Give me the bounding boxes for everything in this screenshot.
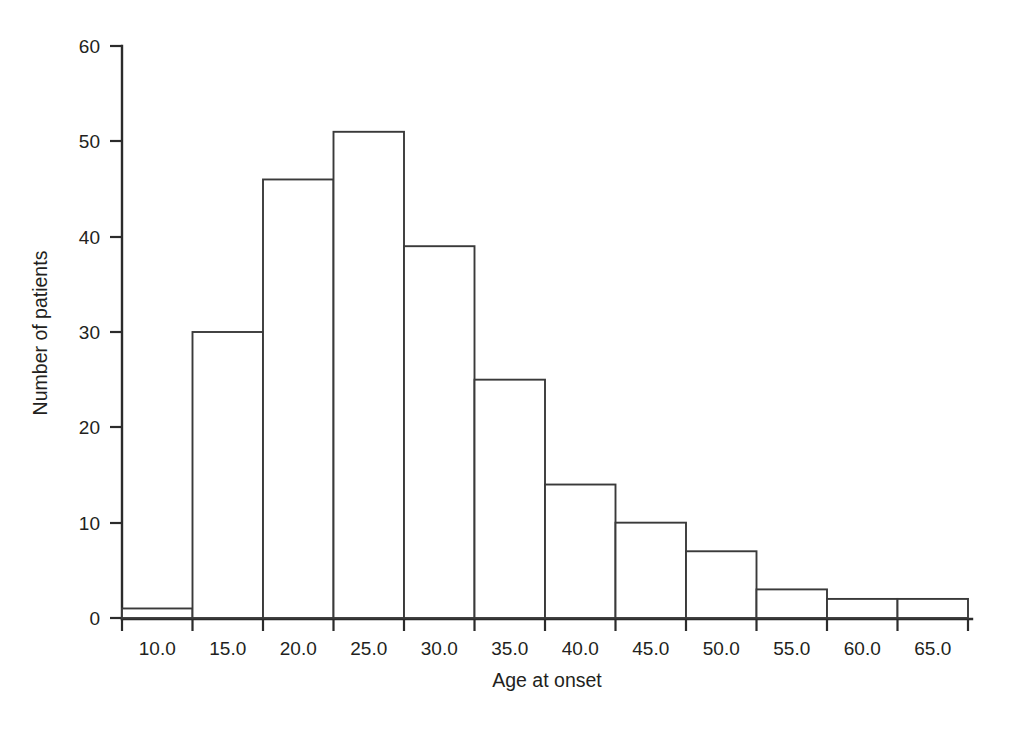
x-tick-label: 20.0 bbox=[280, 638, 317, 659]
x-tick-label: 10.0 bbox=[139, 638, 176, 659]
histogram-bar bbox=[757, 589, 828, 618]
histogram-bar bbox=[686, 551, 757, 618]
y-tick-label: 40 bbox=[79, 227, 100, 248]
histogram-figure: 0 10 20 30 40 50 60 10.015.020.025.030.0… bbox=[0, 0, 1010, 737]
histogram-bar bbox=[545, 485, 616, 618]
histogram-bar bbox=[122, 608, 193, 618]
y-tick-label: 0 bbox=[89, 608, 100, 629]
y-axis-ticks bbox=[110, 46, 122, 618]
histogram-bars bbox=[122, 132, 968, 618]
histogram-bar bbox=[616, 523, 687, 618]
histogram-bar bbox=[475, 380, 546, 618]
y-tick-label: 50 bbox=[79, 131, 100, 152]
histogram-canvas: 0 10 20 30 40 50 60 10.015.020.025.030.0… bbox=[0, 0, 1010, 737]
x-axis-tick-labels: 10.015.020.025.030.035.040.045.050.055.0… bbox=[139, 638, 951, 659]
x-tick-label: 45.0 bbox=[632, 638, 669, 659]
x-tick-label: 30.0 bbox=[421, 638, 458, 659]
x-tick-label: 50.0 bbox=[703, 638, 740, 659]
histogram-bar bbox=[898, 599, 969, 618]
histogram-bar bbox=[263, 179, 334, 618]
y-axis-title: Number of patients bbox=[29, 250, 51, 415]
histogram-bar bbox=[334, 132, 405, 618]
histogram-bar bbox=[404, 246, 475, 618]
y-tick-label: 20 bbox=[79, 417, 100, 438]
histogram-bar bbox=[193, 332, 264, 618]
x-tick-label: 35.0 bbox=[491, 638, 528, 659]
x-axis-ticks bbox=[122, 619, 968, 631]
x-axis-title: Age at onset bbox=[492, 669, 602, 691]
x-tick-label: 25.0 bbox=[350, 638, 387, 659]
y-tick-label: 30 bbox=[79, 322, 100, 343]
y-tick-label: 10 bbox=[79, 513, 100, 534]
x-tick-label: 65.0 bbox=[914, 638, 951, 659]
y-tick-label: 60 bbox=[79, 36, 100, 57]
x-tick-label: 55.0 bbox=[773, 638, 810, 659]
x-tick-label: 40.0 bbox=[562, 638, 599, 659]
x-tick-label: 60.0 bbox=[844, 638, 881, 659]
y-axis-tick-labels: 0 10 20 30 40 50 60 bbox=[79, 36, 100, 629]
x-tick-label: 15.0 bbox=[209, 638, 246, 659]
histogram-bar bbox=[827, 599, 898, 618]
